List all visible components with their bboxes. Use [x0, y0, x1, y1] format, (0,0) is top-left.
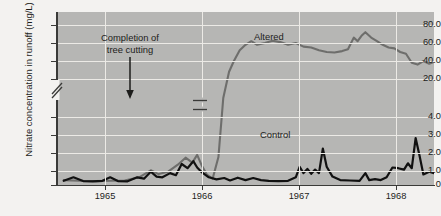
gridline-20 — [57, 79, 434, 80]
y-axis-title: Nitrate concentration in runoff (mg/L) — [23, 0, 34, 170]
y-tick-label-3: 3.0 — [395, 130, 441, 139]
series-label-altered: Altered — [254, 31, 284, 42]
x-tick-label-1965: 1965 — [75, 191, 135, 201]
x-tick-1965 — [105, 185, 106, 190]
annotation-arrow-icon — [124, 57, 136, 99]
gridline-1 — [57, 171, 434, 172]
y-tick-label-60: 60.0 — [395, 38, 441, 47]
annotation-tree-cutting: Completion of tree cutting — [75, 32, 185, 56]
x-tick-1968 — [396, 185, 397, 190]
y-tick-label-4: 4.0 — [395, 112, 441, 121]
y-tick-label-80: 80.0 — [395, 20, 441, 29]
y-tick-label-2: 2.0 — [395, 148, 441, 157]
y-tick-4 — [51, 117, 57, 118]
series-axis-break-icon — [189, 96, 211, 116]
y-tick-label-20: 20.0 — [395, 74, 441, 83]
y-tick-40 — [51, 61, 57, 62]
y-tick-0 — [51, 185, 57, 186]
gridline-4 — [57, 117, 434, 118]
gridline-3 — [57, 135, 434, 136]
y-tick-80 — [51, 25, 57, 26]
series-label-control: Control — [260, 129, 290, 140]
gridline-80 — [57, 25, 434, 26]
annotation-line-2: tree cutting — [107, 44, 153, 55]
y-tick-label-1: 1.0 — [395, 166, 441, 175]
y-tick-label-0: 0 — [395, 180, 441, 189]
y-tick-3 — [51, 135, 57, 136]
x-tick-label-1967: 1967 — [269, 191, 329, 201]
y-tick-1 — [51, 171, 57, 172]
y-tick-label-40: 40.0 — [395, 56, 441, 65]
series-line-control — [64, 138, 434, 181]
y-axis-break-icon — [51, 80, 64, 100]
plot-area: Completion of tree cutting Altered Contr… — [57, 12, 434, 185]
gridline-2 — [57, 153, 434, 154]
x-tick-label-1968: 1968 — [366, 191, 426, 201]
y-tick-60 — [51, 43, 57, 44]
annotation-line-1: Completion of — [101, 32, 159, 43]
y-tick-2 — [51, 153, 57, 154]
x-tick-1967 — [299, 185, 300, 190]
x-tick-label-1966: 1966 — [172, 191, 232, 201]
gridline-40 — [57, 61, 434, 62]
chart-figure: Completion of tree cutting Altered Contr… — [0, 0, 441, 216]
vgridline-1967 — [299, 12, 300, 185]
x-tick-1966 — [202, 185, 203, 190]
x-axis-line — [56, 185, 435, 187]
